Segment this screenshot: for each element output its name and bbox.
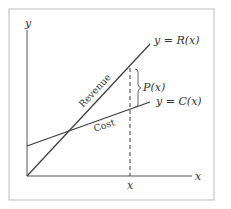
profit-diagram: y x x Revenue y = R(x) Cost y = C(x) P(x… xyxy=(0,0,231,209)
x-axis-label: x xyxy=(195,170,202,183)
y-axis-label: y xyxy=(24,17,32,30)
profit-label: P(x) xyxy=(142,81,165,94)
revenue-equation: y = R(x) xyxy=(153,34,200,47)
cost-equation: y = C(x) xyxy=(155,95,202,108)
x-tick-label: x xyxy=(127,179,134,192)
